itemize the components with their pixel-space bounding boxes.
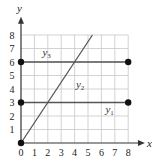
series-label-subscript: 3 [47, 52, 51, 60]
x-tick-label: 1 [32, 147, 37, 158]
y-tick-label: 8 [10, 30, 15, 41]
data-point [125, 59, 131, 65]
x-tick-label: 4 [72, 147, 77, 158]
line-chart: xy01234567812345678y1y2y3 [0, 0, 155, 162]
series-label-y3: y3 [41, 46, 51, 60]
series-label-subscript: 1 [110, 109, 114, 117]
data-point [125, 99, 131, 105]
y-tick-label: 2 [10, 111, 15, 122]
y-axis-arrow-icon [18, 17, 24, 24]
series-label-y1: y1 [104, 103, 114, 117]
data-point [18, 140, 24, 146]
data-point [18, 99, 24, 105]
x-axis-arrow-icon [138, 140, 145, 146]
x-axis-label: x [146, 137, 152, 149]
x-tick-label: 6 [99, 147, 104, 158]
data-point [18, 59, 24, 65]
y-tick-label: 1 [10, 124, 15, 135]
y-tick-label: 6 [10, 57, 15, 68]
y-tick-label: 4 [10, 84, 15, 95]
x-tick-label: 3 [59, 147, 64, 158]
x-tick-label: 7 [112, 147, 117, 158]
x-tick-label: 0 [19, 147, 24, 158]
x-tick-label: 2 [45, 147, 50, 158]
series-label-y2: y2 [75, 78, 85, 92]
x-tick-label: 8 [126, 147, 131, 158]
y-tick-label: 5 [10, 70, 15, 81]
y-axis-label: y [16, 2, 22, 14]
series-label-subscript: 2 [81, 84, 85, 92]
y-tick-label: 7 [10, 43, 15, 54]
x-tick-label: 5 [86, 147, 91, 158]
y-tick-label: 3 [10, 97, 15, 108]
